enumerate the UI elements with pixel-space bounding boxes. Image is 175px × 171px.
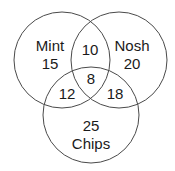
nosh-chips-value: 18 [107, 85, 124, 102]
nosh-only-value: 20 [124, 55, 141, 72]
chips-label: Chips [72, 135, 110, 152]
venn-svg: Mint 15 Nosh 20 10 8 12 18 25 Chips [0, 0, 175, 171]
mint-nosh-value: 10 [82, 41, 99, 58]
mint-chips-value: 12 [59, 85, 76, 102]
chips-only-value: 25 [83, 117, 100, 134]
mint-only-value: 15 [42, 55, 59, 72]
venn-diagram: Mint 15 Nosh 20 10 8 12 18 25 Chips [0, 0, 175, 171]
all-three-value: 8 [87, 70, 95, 87]
nosh-label: Nosh [114, 37, 149, 54]
mint-label: Mint [36, 37, 65, 54]
